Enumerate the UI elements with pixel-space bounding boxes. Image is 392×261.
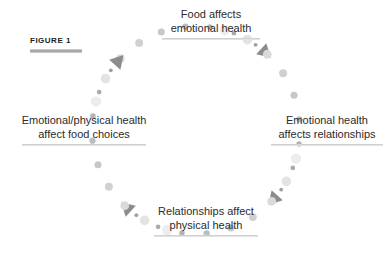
cycle-arc-dot	[279, 69, 287, 77]
cycle-arc-dot	[254, 43, 258, 47]
cycle-node-top-line2: emotional health	[136, 22, 286, 36]
cycle-node-right: Emotional health affects relationships	[262, 114, 392, 146]
cycle-node-bottom-line1: Relationships affect	[134, 205, 278, 219]
cycle-node-left-rule	[22, 144, 146, 146]
figure-cycle-diagram: FIGURE 1 Food affects emotional health E…	[0, 0, 392, 261]
cycle-node-right-line2: affects relationships	[262, 128, 392, 142]
cycle-node-right-rule	[271, 144, 383, 146]
cycle-node-right-line1: Emotional health	[262, 114, 392, 128]
cycle-node-top-rule	[162, 38, 260, 40]
cycle-arc-dot	[109, 68, 113, 72]
cycle-arc-dot	[120, 201, 129, 210]
cycle-arc-dot	[105, 183, 113, 191]
cycle-node-bottom-rule	[154, 235, 258, 237]
cycle-arc-dot	[263, 50, 272, 59]
cycle-arc-dot	[291, 153, 301, 163]
cycle-node-top: Food affects emotional health	[136, 8, 286, 40]
cycle-arc-dot	[291, 166, 296, 171]
cycle-node-top-line1: Food affects	[136, 8, 286, 22]
cycle-arc-dot	[94, 161, 101, 168]
cycle-arc-dot	[97, 90, 102, 95]
figure-tag-label: FIGURE 1	[30, 36, 102, 46]
cycle-node-left-line2: affect food choices	[8, 128, 160, 142]
cycle-arc-dot	[101, 74, 111, 84]
cycle-node-left-line1: Emotional/physical health	[8, 114, 160, 128]
cycle-arc-dot	[279, 188, 283, 192]
cycle-arc-dot	[290, 92, 297, 99]
cycle-node-left: Emotional/physical health affect food ch…	[8, 114, 160, 146]
cycle-node-bottom: Relationships affect physical health	[134, 205, 278, 237]
figure-tag: FIGURE 1	[30, 36, 102, 53]
cycle-arc-dot	[91, 96, 101, 106]
cycle-arc-dot	[135, 39, 143, 47]
figure-tag-rule	[30, 49, 82, 53]
cycle-arc-dot	[282, 177, 292, 187]
cycle-node-bottom-line2: physical health	[134, 219, 278, 233]
